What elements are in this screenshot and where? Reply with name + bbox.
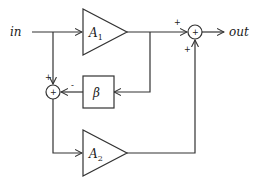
feedback-wire — [114, 32, 150, 92]
output-label: out — [229, 25, 249, 39]
left-junction-top-sign: + — [45, 73, 52, 82]
left-junction-right-sign: - — [71, 81, 74, 90]
feedback-block-label: β — [92, 86, 100, 100]
feedback-block-beta: β — [83, 76, 114, 108]
summing-junction-left-symbol: + — [50, 88, 57, 97]
amplifier-a1: A1 — [83, 9, 127, 55]
summing-junction-right-symbol: + — [192, 28, 199, 37]
summing-junction-left: + + - — [45, 73, 74, 99]
right-junction-left-sign: + — [174, 18, 181, 27]
summing-junction-right: + + + — [174, 18, 202, 54]
amplifier-a2: A2 — [83, 130, 127, 176]
block-diagram: in A1 β + + - A2 + + + out — [0, 0, 256, 187]
right-junction-bottom-sign: + — [184, 45, 191, 54]
input-label: in — [10, 25, 22, 39]
junction-to-a2-wire — [53, 99, 82, 153]
a2-output-wire — [127, 40, 195, 153]
